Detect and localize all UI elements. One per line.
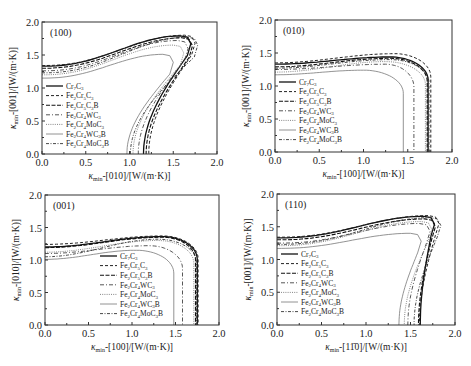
legend-entry: Fe2 Cr4 WC3 B	[301, 298, 341, 308]
y-tick-label: 0.5	[259, 114, 272, 125]
x-tick-label: 2.0	[448, 328, 461, 339]
panel-001: 0.00.51.01.52.00.00.51.01.52.0(001)κmin-…	[11, 190, 226, 353]
series-line	[42, 36, 191, 154]
legend: Cr7 C3 Fe2 Cr5 C3 Fe2 Cr5 C3 BFe2 Cr4 WC…	[279, 78, 342, 145]
series-line	[275, 58, 427, 152]
legend-entry: Fe2 Cr4 MoC3 B	[66, 139, 109, 149]
panel-label: (100)	[50, 27, 72, 39]
legend-entry: Fe2 Cr4 WC3 B	[120, 300, 160, 310]
y-tick-label: 1.0	[259, 81, 272, 92]
x-tick-label: 2.0	[445, 155, 458, 166]
y-tick-label: 1.5	[259, 48, 272, 59]
series-line	[277, 233, 421, 325]
y-tick-label: 1.5	[26, 50, 39, 61]
x-axis-label: κmin-[11̄0]/[W/(m·K)]	[325, 342, 407, 353]
legend-entry: Fe2 Cr5 C3 B	[299, 97, 332, 107]
legend: Cr7 C3 Fe2 Cr5 C3 Fe2 Cr5 C3 BFe2 Cr4 WC…	[281, 250, 344, 317]
legend-entry: Fe2 Cr5 C3	[299, 87, 327, 97]
x-tick-label: 2.0	[210, 157, 223, 168]
x-tick-label: 1.5	[169, 328, 182, 339]
legend-entry: Cr7 C3	[299, 78, 317, 88]
legend-entry: Fe2 Cr4 WC3	[120, 281, 155, 291]
y-tick-label: 1.5	[261, 222, 274, 233]
legend-entry: Fe2 Cr5 C3	[120, 261, 148, 271]
y-tick-label: 0.5	[26, 116, 39, 127]
x-tick-label: 1.0	[357, 155, 370, 166]
legend-entry: Fe2 Cr4 WC3 B	[299, 126, 339, 136]
legend-entry: Fe2 Cr4 WC3	[301, 279, 336, 289]
x-axis-label: κmin-[010]/[W/(m·K)]	[89, 171, 171, 182]
figure: 0.00.51.01.52.00.00.51.01.52.0(100)κmin-…	[0, 0, 471, 366]
y-tick-label: 1.0	[26, 83, 39, 94]
panel-100: 0.00.51.01.52.00.00.51.01.52.0(100)κmin-…	[8, 17, 224, 182]
legend-entry: Fe2 Cr4 MoC3	[301, 288, 339, 298]
y-axis-label: κmin-[001]/[W/(m·K)]	[241, 45, 252, 127]
series-line	[42, 38, 193, 154]
panel-010: 0.00.51.01.52.00.00.51.01.52.0(010)κmin-…	[241, 15, 459, 180]
y-tick-label: 0.0	[261, 320, 274, 331]
legend-entry: Fe2 Cr5 C3 B	[301, 269, 334, 279]
x-tick-label: 1.0	[123, 157, 136, 168]
legend: Cr7 C3 Fe2 Cr5 C3 Fe2 Cr5 C3 BFe2 Cr4 WC…	[100, 252, 163, 319]
y-tick-label: 0.0	[26, 149, 39, 160]
y-tick-label: 0.0	[259, 147, 272, 158]
y-tick-label: 0.5	[261, 287, 274, 298]
y-tick-label: 0.0	[29, 320, 42, 331]
legend-entry: Fe2 Cr4 MoC3	[299, 116, 337, 126]
legend-entry: Fe2 Cr4 MoC3	[66, 120, 104, 130]
series-line	[275, 62, 425, 152]
x-axis-label: κmin-[100]/[W/(m·K)]	[91, 342, 173, 353]
x-tick-label: 2.0	[212, 328, 225, 339]
x-tick-label: 1.0	[359, 328, 372, 339]
y-axis-label: κmin-[001]/[W/(m·K)]	[243, 219, 254, 301]
y-axis-label: κmin-[001]/[W/(m·K)]	[8, 47, 19, 129]
panel-label: (001)	[53, 200, 75, 212]
panel-label: (010)	[283, 25, 305, 37]
x-axis-label: κmin-[100]/[W/(m·K)]	[323, 169, 405, 180]
x-tick-label: 1.0	[125, 328, 138, 339]
y-tick-label: 2.0	[261, 189, 274, 200]
x-tick-label: 1.5	[401, 155, 414, 166]
panel-110: 0.00.51.01.52.00.00.51.01.52.0(110)κmin-…	[243, 189, 462, 353]
legend-entry: Fe2 Cr5 C3 B	[120, 271, 153, 281]
legend-entry: Fe2 Cr4 WC3	[299, 107, 334, 117]
legend-entry: Fe2 Cr4 MoC3 B	[301, 307, 344, 317]
legend-entry: Fe2 Cr4 MoC3	[120, 290, 158, 300]
legend-entry: Fe2 Cr4 WC3	[66, 111, 101, 121]
legend-entry: Fe2 Cr5 C3	[301, 259, 329, 269]
x-tick-label: 1.5	[167, 157, 180, 168]
x-tick-label: 0.5	[315, 328, 328, 339]
x-tick-label: 0.5	[79, 157, 92, 168]
legend-entry: Fe2 Cr4 MoC3 B	[299, 135, 342, 145]
y-tick-label: 2.0	[26, 17, 39, 28]
legend-entry: Fe2 Cr4 WC3 B	[66, 130, 106, 140]
x-tick-label: 0.5	[313, 155, 326, 166]
legend-entry: Fe2 Cr5 C3 B	[66, 101, 99, 111]
x-tick-label: 1.5	[404, 328, 417, 339]
y-tick-label: 1.0	[261, 255, 274, 266]
legend-entry: Cr7 C3	[120, 252, 138, 262]
x-tick-label: 0.5	[82, 328, 95, 339]
legend-entry: Cr7 C3	[66, 82, 84, 92]
y-tick-label: 1.5	[29, 223, 42, 234]
panel-label: (110)	[285, 199, 306, 211]
y-tick-label: 2.0	[259, 15, 272, 26]
legend: Cr7 C3 Fe2 Cr5 C3 Fe2 Cr5 C3 BFe2 Cr4 WC…	[46, 82, 109, 149]
y-tick-label: 1.0	[29, 255, 42, 266]
legend-entry: Fe2 Cr5 C3	[66, 91, 94, 101]
legend-entry: Cr7 C3	[301, 250, 319, 260]
y-tick-label: 2.0	[29, 190, 42, 201]
y-axis-label: κmin-[010]/[W/(m·K)]	[11, 219, 22, 301]
legend-entry: Fe2 Cr4 MoC3 B	[120, 309, 163, 319]
y-tick-label: 0.5	[29, 288, 42, 299]
